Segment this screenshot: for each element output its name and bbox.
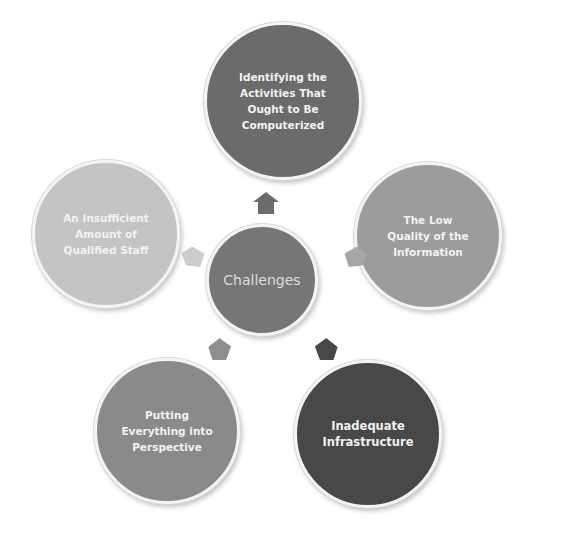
node-putting-into-perspective: Putting Everything into Perspective — [94, 358, 240, 504]
node-label: Putting Everything into Perspective — [121, 407, 213, 455]
node-label: The Low Quality of the Information — [387, 212, 469, 260]
arrow-down-left-icon — [204, 336, 235, 367]
node-label: Identifying the Activities That Ought to… — [231, 69, 335, 133]
node-inadequate-infrastructure: Inadequate Infrastructure — [294, 360, 442, 508]
arrow-up-icon — [253, 192, 279, 214]
node-low-quality-information: The Low Quality of the Information — [354, 162, 502, 310]
center-node-challenges: Challenges — [206, 224, 318, 336]
arrow-left-icon — [178, 244, 205, 270]
center-label: Challenges — [223, 272, 300, 288]
challenges-cycle-diagram: Identifying the Activities That Ought to… — [0, 0, 562, 546]
node-identifying-activities: Identifying the Activities That Ought to… — [204, 22, 362, 180]
node-label: Inadequate Infrastructure — [321, 418, 415, 450]
node-label: An Insufficient Amount of Qualified Staf… — [63, 210, 149, 258]
node-insufficient-qualified-staff: An Insufficient Amount of Qualified Staf… — [32, 160, 180, 308]
arrow-down-right-icon — [312, 336, 343, 367]
